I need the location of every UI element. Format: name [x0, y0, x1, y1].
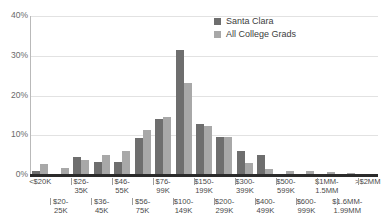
x-axis-tick-mark — [337, 198, 338, 205]
bar — [135, 138, 143, 175]
bar-group — [153, 117, 173, 175]
x-axis-tick-mark — [91, 198, 92, 205]
bar-group — [214, 137, 234, 175]
x-axis-tick-mark — [50, 198, 51, 205]
x-axis-tick-mark — [153, 178, 154, 185]
x-axis-tick-mark — [255, 198, 256, 205]
bar — [163, 117, 171, 175]
bar-group — [235, 151, 255, 175]
x-axis-labels: <$20K$20-25K$26-35K$36-45K$46-55K$56-75K… — [0, 176, 383, 223]
bar — [196, 124, 204, 175]
x-axis-tick-mark — [358, 178, 359, 185]
legend-label-santa-clara: Santa Clara — [226, 16, 274, 26]
y-axis-tick-label: 40% — [0, 10, 28, 20]
x-axis-tick-mark — [276, 178, 277, 185]
chart-legend: Santa Clara All College Grads — [214, 16, 296, 42]
y-axis-tick-label: 30% — [0, 50, 28, 60]
legend-swatch-icon-santa-clara — [214, 18, 221, 25]
x-axis-tick-mark — [317, 178, 318, 185]
bar — [122, 151, 130, 175]
legend-label-all-college-grads: All College Grads — [226, 29, 296, 39]
x-axis-tick-mark — [71, 178, 72, 185]
bar-chart: 0%10%20%30%40% Santa Clara All College G… — [0, 0, 383, 223]
bar — [94, 162, 102, 176]
bar-group — [112, 151, 132, 175]
x-axis-tick-mark — [173, 198, 174, 205]
bar-group — [71, 157, 91, 175]
bar — [143, 130, 151, 175]
bar — [216, 137, 224, 175]
bar — [204, 126, 212, 175]
x-axis-tick-mark — [112, 178, 113, 185]
y-axis-tick-label: 10% — [0, 129, 28, 139]
x-axis-tick-mark — [214, 198, 215, 205]
bar-group — [132, 130, 152, 175]
x-axis-tick-mark — [296, 198, 297, 205]
x-axis-tick-mark — [235, 178, 236, 185]
bar — [155, 119, 163, 175]
bar — [73, 157, 81, 175]
bar — [114, 162, 122, 176]
x-axis-label: $1.6MM-1.99MM — [321, 197, 373, 215]
y-axis-tick-label: 20% — [0, 90, 28, 100]
legend-item-all-college-grads: All College Grads — [214, 29, 296, 39]
bar-group — [255, 155, 275, 175]
bar — [102, 155, 110, 175]
bar — [224, 137, 232, 175]
bar — [237, 151, 245, 175]
bar — [184, 83, 192, 175]
x-axis-tick-mark — [132, 198, 133, 205]
bar-groups — [30, 16, 378, 175]
bar — [176, 50, 184, 175]
x-axis-tick-mark — [194, 178, 195, 185]
bar-group — [173, 50, 193, 175]
bar-group — [194, 124, 214, 175]
bar — [81, 160, 89, 175]
bar-group — [91, 155, 111, 175]
x-axis-label: >$2MM — [342, 177, 383, 186]
bar — [257, 155, 265, 175]
legend-item-santa-clara: Santa Clara — [214, 16, 296, 26]
legend-swatch-icon-all-college-grads — [214, 31, 221, 38]
